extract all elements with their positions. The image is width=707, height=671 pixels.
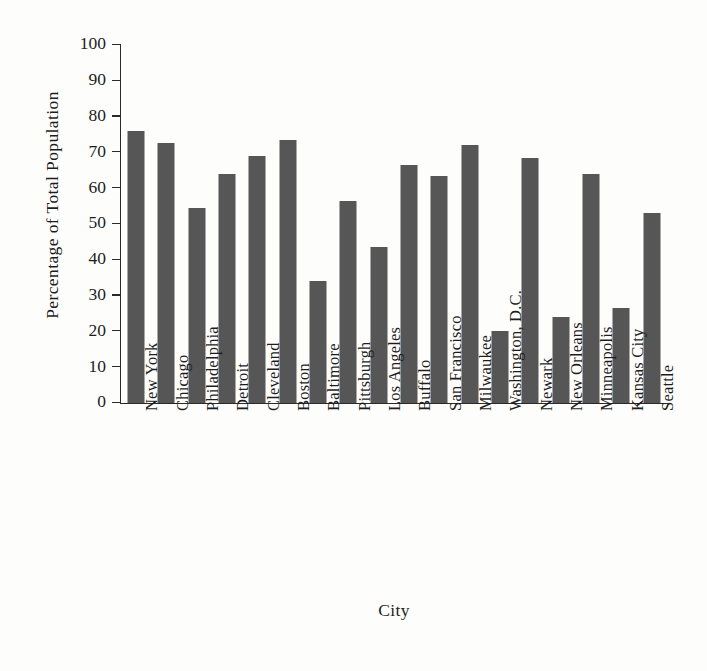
y-axis-tick: 30 [112, 294, 121, 295]
x-axis-tick-label-text: Baltimore [324, 343, 344, 411]
y-axis-tick: 40 [112, 259, 121, 260]
x-axis-tick-label: Washington, D.C. [506, 290, 526, 411]
x-axis-tick-label-text: Chicago [173, 355, 193, 411]
x-axis-tick-label: Baltimore [324, 343, 344, 411]
x-axis-tick-label-text: Washington, D.C. [506, 290, 526, 411]
x-axis-title: City [121, 600, 667, 621]
y-axis-tick: 90 [112, 80, 121, 81]
x-axis-tick-label: New York [142, 342, 162, 411]
x-axis-tick-label-text: Minneapolis [597, 326, 617, 411]
x-axis-tick-label: New Orleans [567, 322, 587, 411]
x-axis-tick-label: Buffalo [415, 359, 435, 411]
x-axis-tick-label: Minneapolis [597, 326, 617, 411]
y-axis-tick: 20 [112, 330, 121, 331]
y-axis-tick-label: 50 [89, 214, 107, 232]
x-axis-tick-label-text: Milwaukee [476, 335, 496, 411]
y-axis-tick-label: 40 [89, 250, 107, 268]
x-axis-tick-label-text: Detroit [233, 363, 253, 411]
x-axis-tick-label-text: Kansas City [628, 329, 648, 411]
y-axis-tick: 100 [112, 44, 121, 45]
x-axis-tick-label: Newark [537, 358, 557, 411]
x-axis-tick-label: Philadelphia [203, 326, 223, 411]
y-axis-tick-label: 30 [89, 286, 107, 304]
x-axis-tick-label-text: New York [142, 342, 162, 411]
x-axis-tick-label-text: Los Angeles [385, 327, 405, 411]
x-axis-tick-label-text: Philadelphia [203, 326, 223, 411]
x-axis-tick-label-text: San Francisco [446, 315, 466, 411]
x-axis-tick-label-text: Buffalo [415, 359, 435, 411]
x-axis-tick-label-text: New Orleans [567, 322, 587, 411]
x-axis-tick-label: Milwaukee [476, 335, 496, 411]
x-axis-tick-label-text: Newark [537, 358, 557, 411]
plot-area: 0102030405060708090100 New YorkChicagoPh… [121, 45, 667, 403]
x-axis-tick-label: Pittsburgh [355, 341, 375, 411]
y-axis-tick-label: 90 [89, 71, 107, 89]
x-axis-tick-label: Boston [294, 363, 314, 411]
y-axis-tick-label: 20 [89, 322, 107, 340]
y-axis-tick: 80 [112, 115, 121, 116]
x-axis-tick-label-text: Cleveland [264, 342, 284, 411]
y-axis-tick-label: 70 [89, 143, 107, 161]
x-axis-tick-label: Seattle [658, 365, 678, 411]
y-axis-tick: 10 [112, 366, 121, 367]
x-axis-tick-label-text: Seattle [658, 365, 678, 411]
y-axis-tick-label: 0 [97, 393, 106, 411]
y-axis-tick-label: 60 [89, 178, 107, 196]
y-axis-tick-label: 80 [89, 107, 107, 125]
x-axis-tick-label: San Francisco [446, 315, 466, 411]
x-axis-tick-label: Cleveland [264, 342, 284, 411]
y-axis-title: Percentage of Total Population [42, 0, 72, 415]
y-axis-tick-label: 10 [89, 357, 107, 375]
x-axis-tick-label: Kansas City [628, 329, 648, 411]
x-axis-tick-label: Detroit [233, 363, 253, 411]
x-axis-tick-label: Chicago [173, 355, 193, 411]
bar-chart-figure: Percentage of Total Population 010203040… [0, 0, 707, 671]
x-axis-tick-label-text: Pittsburgh [355, 341, 375, 411]
x-axis-tick-label: Los Angeles [385, 327, 405, 411]
y-axis-tick: 70 [112, 151, 121, 152]
y-axis-tick: 60 [112, 187, 121, 188]
y-axis-tick: 0 [112, 402, 121, 403]
x-axis-tick-label-text: Boston [294, 363, 314, 411]
y-axis-tick-label: 100 [80, 35, 106, 53]
y-axis-tick: 50 [112, 223, 121, 224]
